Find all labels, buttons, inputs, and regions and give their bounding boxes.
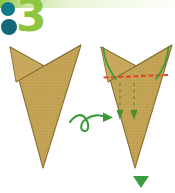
diagram-page: 3: [0, 0, 175, 193]
origami-diagram-canvas: [0, 0, 175, 193]
swirl-arrow-head: [103, 113, 113, 123]
next-step-triangle-shape: [133, 176, 149, 188]
figure-before: [10, 45, 81, 168]
next-step-triangle: [133, 176, 149, 188]
turn-over-swirl-arrow: [70, 113, 113, 132]
figure-after: [101, 45, 172, 168]
swirl-arrow-path: [70, 115, 106, 131]
